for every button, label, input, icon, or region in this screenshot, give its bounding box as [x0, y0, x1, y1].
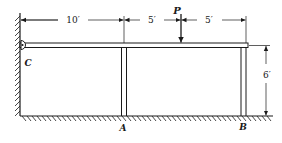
wall	[15, 13, 20, 116]
beam	[20, 43, 248, 48]
wall-hatching	[15, 16, 20, 116]
pin-icon	[21, 44, 23, 46]
dim-p-to-b: 5′	[205, 15, 213, 25]
dim-height: 6′	[263, 70, 271, 80]
label-c: C	[24, 58, 32, 68]
height-dimension	[249, 46, 270, 116]
label-p: P	[172, 5, 181, 16]
label-b: B	[238, 122, 247, 132]
post-a	[122, 48, 127, 117]
dim-a-to-p: 5′	[148, 15, 156, 25]
dim-c-to-a: 10′	[66, 15, 80, 25]
ground-hatching	[22, 116, 271, 121]
post-b	[241, 48, 246, 117]
ground	[20, 116, 273, 121]
frame-diagram: 10′ 5′ 5′ P 6′ C A B	[0, 0, 282, 143]
label-a: A	[119, 123, 127, 133]
pin-support-c	[21, 41, 26, 50]
